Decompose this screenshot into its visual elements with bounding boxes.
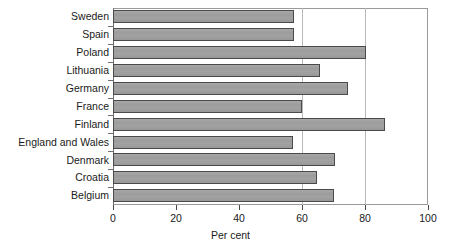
bar [113,46,366,59]
x-axis-tick [302,205,303,210]
category-label: Finland [75,119,109,130]
category-label: Germany [66,83,109,94]
category-tick [108,80,113,81]
category-tick [108,133,113,134]
bar [113,100,302,113]
category-label: Croatia [75,172,109,183]
category-label: Denmark [66,155,109,166]
category-tick [108,44,113,45]
x-axis-tick-label: 100 [408,212,448,224]
category-label: England and Wales [18,137,109,148]
bar [113,189,334,202]
category-tick [108,26,113,27]
bar [113,153,335,166]
bar-chart: SwedenSpainPolandLithuaniaGermanyFranceF… [0,0,461,247]
bar [113,82,348,95]
category-label: Belgium [71,190,109,201]
category-label: Spain [82,29,109,40]
category-tick [108,151,113,152]
category-label: Poland [76,47,109,58]
x-axis-tick-label: 20 [156,212,196,224]
category-tick [108,62,113,63]
category-tick [108,187,113,188]
bar [113,171,317,184]
x-axis-tick-label: 80 [345,212,385,224]
bar [113,118,385,131]
x-axis-title: Per cent [0,229,461,241]
x-axis-tick [239,205,240,210]
x-axis-tick-label: 60 [282,212,322,224]
category-tick [108,98,113,99]
category-label: Lithuania [66,65,109,76]
x-axis-tick [365,205,366,210]
x-axis-tick [113,205,114,210]
x-axis-tick [428,205,429,210]
category-tick [108,169,113,170]
category-tick [108,115,113,116]
category-label: Sweden [71,11,109,22]
x-axis-tick-label: 40 [219,212,259,224]
gridline [365,8,366,205]
bar [113,64,320,77]
x-axis-tick-label: 0 [93,212,133,224]
bar [113,28,294,41]
x-axis-tick [176,205,177,210]
bar [113,10,294,23]
bar [113,136,293,149]
category-label: France [76,101,109,112]
